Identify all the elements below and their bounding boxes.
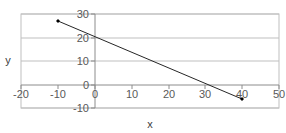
x-tick-label: 0 bbox=[92, 88, 98, 100]
data-point-marker bbox=[56, 19, 60, 23]
x-tick-label: 50 bbox=[273, 88, 285, 100]
x-tick-label: -10 bbox=[50, 88, 66, 100]
x-tick-label: -20 bbox=[13, 88, 29, 100]
x-tick-label: 10 bbox=[126, 88, 138, 100]
y-tick-label: 0 bbox=[83, 79, 89, 91]
x-axis-title: x bbox=[147, 118, 153, 130]
y-tick-label: 10 bbox=[77, 55, 89, 67]
x-tick-label: 30 bbox=[199, 88, 211, 100]
x-tick-labels: -20 -10 0 10 20 30 40 50 bbox=[13, 88, 285, 100]
y-tick-label: 30 bbox=[77, 8, 89, 20]
chart: 30 20 10 0 -10 -20 -10 0 10 20 30 40 50 … bbox=[0, 0, 286, 133]
y-axis-title: y bbox=[5, 54, 11, 66]
y-tick-label: -10 bbox=[73, 102, 89, 114]
x-tick-label: 20 bbox=[163, 88, 175, 100]
